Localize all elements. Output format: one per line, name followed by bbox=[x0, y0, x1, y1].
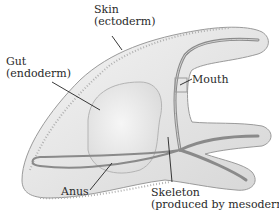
anus-label: Anus bbox=[61, 186, 89, 198]
larva-diagram: Skin (ectoderm) Gut (endoderm) Mouth Anu… bbox=[0, 0, 279, 214]
skin-label: Skin (ectoderm) bbox=[94, 4, 156, 28]
mouth-label: Mouth bbox=[192, 74, 228, 86]
gut bbox=[88, 82, 162, 173]
skin-leader-line bbox=[112, 36, 122, 50]
skeleton-label: Skeleton (produced by mesoderm) bbox=[151, 187, 279, 211]
larva-illustration bbox=[0, 0, 279, 214]
gut-label: Gut (endoderm) bbox=[6, 56, 71, 80]
